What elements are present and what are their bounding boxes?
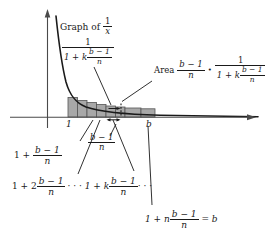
x-axis-arrowhead-icon (247, 114, 256, 120)
fraction-area-height: 11 + kb − 1n (215, 56, 265, 85)
label-area-multiplication-dot: • (208, 66, 212, 74)
label-rectangle-height-fraction: 1 1 + kb − 1n (62, 38, 114, 67)
label-area-word: Area (154, 65, 174, 75)
label-graph-of-text: Graph of (60, 22, 103, 32)
tick-label-1: 1 (66, 120, 72, 129)
label-subinterval-width: b − 1 n (88, 133, 115, 154)
fraction-rectangle-height-denominator: 1 + kb − 1n (62, 48, 114, 66)
leader-area (122, 81, 152, 102)
fraction-rectangle-height: 1 1 + kb − 1n (62, 38, 114, 67)
label-general-partition-points: 1 + 2b − 1n· · · 1 + kb − 1n· · · (12, 176, 152, 198)
fraction-kth-partition-denominator: n (109, 187, 138, 197)
fraction-first-partition-denominator: n (33, 156, 62, 166)
figure-canvas (0, 0, 265, 236)
label-first-partition-point: 1 + b − 1n (14, 145, 62, 167)
fraction-area-width-denominator: n (177, 71, 204, 81)
leader-kth-partition (113, 120, 134, 171)
height-denominator-prefix: 1 + k (64, 52, 87, 62)
fraction-last-partition: b − 1n (170, 209, 199, 231)
label-second-partition-prefix: 1 + 2 (12, 181, 37, 191)
area-height-denominator-prefix: 1 + k (217, 70, 240, 80)
label-graph-of: Graph of 1x (60, 17, 112, 38)
fraction-area-width-numerator: b − 1 (177, 60, 204, 71)
fraction-second-partition-denominator: n (37, 187, 66, 197)
y-axis-arrowhead-icon (45, 9, 51, 18)
fraction-kth-partition: b − 1n (109, 176, 138, 198)
fraction-one-over-x-denominator: x (103, 27, 112, 37)
tick-label-b: b (146, 120, 152, 129)
fraction-area-width: b − 1n (177, 60, 204, 81)
label-first-partition-prefix: 1 + (14, 150, 33, 160)
fraction-step-width-inner-2-denominator: n (240, 76, 265, 85)
label-kth-partition-prefix: 1 + k (85, 181, 109, 191)
label-last-partition-point: 1 + nb − 1n = b (145, 209, 218, 231)
fraction-step-width-inner-denominator: n (87, 58, 112, 67)
fraction-one-over-x: 1x (103, 17, 112, 38)
fraction-kth-partition-numerator: b − 1 (109, 176, 138, 187)
fraction-step-width-inner-2: b − 1n (240, 66, 265, 84)
fraction-first-partition-numerator: b − 1 (33, 145, 62, 156)
fraction-last-partition-denominator: n (170, 220, 199, 230)
fraction-first-partition: b − 1n (33, 145, 62, 167)
leader-height-fraction (94, 67, 111, 105)
math-figure-riemann-sum-one-over-x: Graph of 1x 1 1 + kb − 1n Areab − 1n•11 … (0, 0, 265, 236)
fraction-second-partition: b − 1n (37, 176, 66, 198)
fraction-step-width-inner: b − 1n (87, 48, 112, 66)
label-area-expression: Areab − 1n•11 + kb − 1n (154, 56, 265, 85)
fraction-area-height-denominator: 1 + kb − 1n (215, 66, 265, 84)
fraction-last-partition-numerator: b − 1 (170, 209, 199, 220)
label-last-partition-prefix: 1 + n (145, 214, 170, 224)
label-last-partition-suffix: = b (199, 214, 218, 224)
label-partition-dots-middle: · · · (67, 181, 84, 191)
riemann-rect-7 (125, 108, 141, 117)
fraction-subinterval-width: b − 1 n (88, 133, 115, 154)
label-partition-dots-end: · · · (138, 181, 152, 191)
fraction-subinterval-width-denominator: n (88, 143, 115, 153)
fraction-second-partition-numerator: b − 1 (37, 176, 66, 187)
